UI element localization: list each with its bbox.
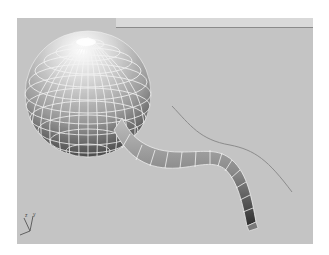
scene-canvas[interactable]: z y <box>17 18 313 244</box>
axis-tripod-icon: z y <box>20 211 36 235</box>
3d-viewport[interactable]: Perspective <box>17 18 313 244</box>
svg-text:z: z <box>25 212 28 218</box>
path-spline <box>172 106 292 192</box>
svg-text:y: y <box>33 211 36 217</box>
